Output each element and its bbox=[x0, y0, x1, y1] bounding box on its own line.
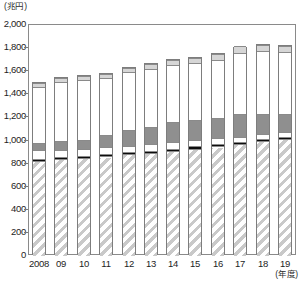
x-axis-tick-label: 19 bbox=[268, 259, 301, 269]
bar-segment-tall-white-segment bbox=[145, 69, 157, 127]
bar-segment-dark-gray-segment bbox=[55, 141, 67, 150]
bar-segment-white-segment-upper bbox=[279, 132, 291, 137]
bar-segment-dark-gray-segment bbox=[212, 118, 224, 138]
y-axis-tick-mark bbox=[24, 47, 28, 48]
bar-segment-light-gray-cap-segment bbox=[33, 83, 45, 87]
bar-segment-white-segment-lower bbox=[189, 149, 201, 150]
bar-segment-light-gray-cap-segment bbox=[234, 46, 246, 52]
bar-segment-hatched-bottom-segment bbox=[123, 155, 135, 256]
bar-segment-white-segment-upper bbox=[55, 150, 67, 157]
bar-segment-black-band-segment bbox=[78, 156, 90, 158]
bar-segment-light-gray-cap-segment bbox=[123, 68, 135, 72]
chart-root: (兆円) 2,0001,8001,6001,4001,2001,00080060… bbox=[0, 0, 301, 283]
y-axis-tick-mark bbox=[24, 186, 28, 187]
bar-segment-tall-white-segment bbox=[123, 72, 135, 130]
y-axis-tick-mark bbox=[24, 93, 28, 94]
y-axis-tick-label: 1,800 bbox=[0, 42, 26, 52]
bar-segment-dark-gray-segment bbox=[279, 114, 291, 132]
bar-segment-black-band-segment bbox=[167, 149, 179, 151]
bar-segment-tall-white-segment bbox=[100, 78, 112, 136]
bar-segment-dark-gray-segment bbox=[234, 114, 246, 137]
bar-segment-tall-white-segment bbox=[33, 87, 45, 144]
bar-segment-white-segment-upper bbox=[234, 137, 246, 142]
y-axis-tick-label: 1,400 bbox=[0, 88, 26, 98]
bar-segment-white-segment-lower bbox=[234, 144, 246, 145]
bar-segment-black-band-segment bbox=[189, 146, 201, 148]
bar-segment-black-band-segment bbox=[55, 157, 67, 159]
bar-segment-white-segment-lower bbox=[55, 159, 67, 160]
x-axis-unit-label: (年度) bbox=[275, 270, 298, 279]
bar-segment-black-band-segment bbox=[145, 151, 157, 153]
bar-segment-white-segment-lower bbox=[100, 156, 112, 157]
bar-segment-black-band-segment bbox=[123, 152, 135, 154]
bar-17 bbox=[233, 47, 247, 255]
y-axis-tick-mark bbox=[24, 163, 28, 164]
bar-segment-white-segment-upper bbox=[145, 144, 157, 151]
bar-segment-dark-gray-segment bbox=[167, 122, 179, 142]
bar-segment-white-segment-lower bbox=[145, 153, 157, 154]
bar-segment-tall-white-segment bbox=[257, 51, 269, 114]
bar-13 bbox=[144, 63, 158, 255]
bar-segment-white-segment-lower bbox=[78, 158, 90, 159]
bar-segment-light-gray-cap-segment bbox=[167, 60, 179, 65]
bar-segment-light-gray-cap-segment bbox=[55, 78, 67, 82]
bar-segment-hatched-bottom-segment bbox=[78, 159, 90, 256]
bar-segment-hatched-bottom-segment bbox=[100, 158, 112, 256]
bar-segment-tall-white-segment bbox=[189, 63, 201, 120]
bar-segment-hatched-bottom-segment bbox=[167, 152, 179, 256]
bar-segment-hatched-bottom-segment bbox=[189, 150, 201, 256]
y-axis-tick-label: 200 bbox=[0, 227, 26, 237]
bar-segment-white-segment-lower bbox=[167, 151, 179, 152]
bar-segment-white-segment-upper bbox=[189, 140, 201, 147]
bar-segment-light-gray-cap-segment bbox=[257, 45, 269, 51]
bar-09 bbox=[54, 77, 68, 255]
bar-segment-tall-white-segment bbox=[234, 53, 246, 114]
bar-segment-dark-gray-segment bbox=[123, 130, 135, 146]
bar-18 bbox=[256, 44, 270, 255]
bar-segment-white-segment-upper bbox=[78, 149, 90, 156]
bar-segment-dark-gray-segment bbox=[257, 114, 269, 134]
bar-segment-hatched-bottom-segment bbox=[234, 145, 246, 256]
bar-segment-hatched-bottom-segment bbox=[212, 148, 224, 256]
bar-segment-black-band-segment bbox=[257, 139, 269, 141]
bar-segment-light-gray-cap-segment bbox=[145, 64, 157, 69]
y-axis-tick-mark bbox=[24, 70, 28, 71]
bar-segment-hatched-bottom-segment bbox=[279, 140, 291, 256]
bar-segment-hatched-bottom-segment bbox=[55, 160, 67, 256]
bar-11 bbox=[99, 73, 113, 255]
bar-segment-black-band-segment bbox=[100, 154, 112, 156]
bar-segment-dark-gray-segment bbox=[100, 135, 112, 147]
bar-segment-white-segment-lower bbox=[123, 154, 135, 155]
bar-segment-black-band-segment bbox=[234, 142, 246, 144]
bar-segment-hatched-bottom-segment bbox=[257, 142, 269, 256]
bar-segment-white-segment-upper bbox=[167, 142, 179, 149]
y-axis-tick-label: 2,000 bbox=[0, 19, 26, 29]
y-axis-tick-mark bbox=[24, 209, 28, 210]
bar-19 bbox=[278, 45, 292, 255]
y-axis-tick-label: 400 bbox=[0, 204, 26, 214]
y-axis-tick-mark bbox=[24, 232, 28, 233]
bar-segment-white-segment-upper bbox=[123, 146, 135, 152]
y-axis-tick-mark bbox=[24, 116, 28, 117]
bar-segment-black-band-segment bbox=[279, 137, 291, 139]
bar-segment-white-segment-lower bbox=[279, 139, 291, 140]
bar-16 bbox=[211, 53, 225, 255]
y-axis-tick-label: 1,200 bbox=[0, 111, 26, 121]
bar-15 bbox=[188, 57, 202, 255]
bar-segment-dark-gray-segment bbox=[145, 127, 157, 144]
bar-segment-light-gray-cap-segment bbox=[78, 76, 90, 80]
bar-segment-dark-gray-segment bbox=[33, 143, 45, 150]
bar-14 bbox=[166, 59, 180, 255]
bar-segment-white-segment-upper bbox=[212, 138, 224, 144]
bar-segment-white-segment-lower bbox=[33, 161, 45, 162]
bar-segment-white-segment-lower bbox=[212, 146, 224, 147]
bar-segment-light-gray-cap-segment bbox=[212, 54, 224, 59]
bar-segment-light-gray-cap-segment bbox=[279, 46, 291, 52]
bar-segment-white-segment-lower bbox=[257, 141, 269, 142]
y-axis-tick-mark bbox=[24, 140, 28, 141]
bar-segment-tall-white-segment bbox=[212, 60, 224, 118]
bar-segment-light-gray-cap-segment bbox=[189, 58, 201, 63]
bar-12 bbox=[122, 67, 136, 255]
bar-segment-black-band-segment bbox=[33, 159, 45, 161]
bar-segment-white-segment-upper bbox=[33, 150, 45, 158]
